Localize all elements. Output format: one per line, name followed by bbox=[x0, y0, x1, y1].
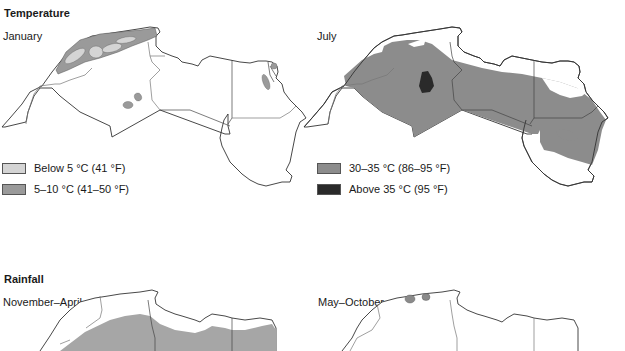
zone-5-10c bbox=[271, 63, 277, 69]
legend-swatch-above-35c bbox=[317, 184, 341, 195]
legend-5-10c: 5–10 °C (41–50 °F) bbox=[2, 183, 129, 195]
legend-label-above-35c: Above 35 °C (95 °F) bbox=[349, 183, 448, 195]
nov-apr-map bbox=[40, 290, 276, 351]
legend-label-30-35c: 30–35 °C (86–95 °F) bbox=[349, 162, 450, 174]
legend-swatch-5-10c bbox=[2, 184, 26, 195]
zone-5-10c bbox=[123, 102, 133, 109]
legend-label-5-10c: 5–10 °C (41–50 °F) bbox=[34, 183, 129, 195]
rainfall-zone-may-oct bbox=[405, 295, 415, 303]
rainfall-zone-may-oct bbox=[422, 294, 430, 301]
may-oct-map bbox=[342, 290, 578, 351]
legend-below-5c: Below 5 °C (41 °F) bbox=[2, 162, 125, 174]
legend-label-below-5c: Below 5 °C (41 °F) bbox=[34, 162, 125, 174]
north-africa-maps bbox=[0, 0, 625, 351]
legend-swatch-below-5c bbox=[2, 163, 26, 174]
legend-30-35c: 30–35 °C (86–95 °F) bbox=[317, 162, 450, 174]
legend-above-35c: Above 35 °C (95 °F) bbox=[317, 183, 448, 195]
zone-below-5c bbox=[89, 46, 103, 58]
legend-swatch-30-35c bbox=[317, 163, 341, 174]
